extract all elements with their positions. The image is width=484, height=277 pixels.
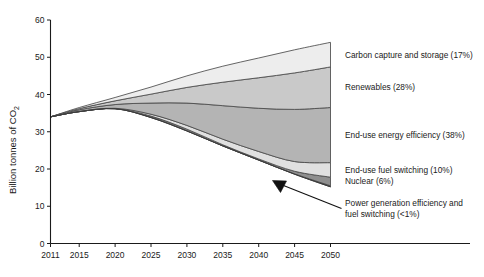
chart-figure: 0102030405060 20112015202020252030203520…	[0, 0, 484, 277]
legend-label-nuclear-6: Nuclear (6%)	[345, 176, 394, 186]
x-tick-label-2025: 2025	[142, 250, 161, 260]
emissions-abatement-wedge-chart: 0102030405060 20112015202020252030203520…	[0, 0, 484, 277]
x-tick-label-2035: 2035	[213, 250, 232, 260]
x-tick-label-2015: 2015	[70, 250, 89, 260]
x-axis-ticks: 201120152020202520302035204020452050	[41, 244, 340, 260]
legend-label-end-use-fuel-switching-10: End-use fuel switching (10%)	[345, 165, 453, 175]
stacked-wedge-areas	[51, 42, 331, 187]
x-tick-label-2045: 2045	[285, 250, 304, 260]
legend-label-renewables-28: Renewables (28%)	[345, 82, 415, 92]
y-axis-ticks: 0102030405060	[35, 15, 50, 249]
x-tick-label-2040: 2040	[249, 250, 268, 260]
x-tick-label-2050: 2050	[321, 250, 340, 260]
y-tick-label-20: 20	[35, 164, 45, 174]
x-tick-label-2030: 2030	[177, 250, 196, 260]
y-tick-label-40: 40	[35, 90, 45, 100]
y-axis-title-text: Billion tonnes of CO2	[7, 106, 20, 194]
y-tick-label-60: 60	[35, 15, 45, 25]
legend-label-end-use-energy-efficiency-38: End-use energy efficiency (38%)	[345, 130, 465, 140]
legend: Carbon capture and storage (17%)Renewabl…	[345, 50, 473, 187]
x-tick-label-2020: 2020	[106, 250, 125, 260]
y-tick-label-0: 0	[40, 239, 45, 249]
y-tick-label-30: 30	[35, 127, 45, 137]
callout-leader-line	[281, 185, 342, 209]
legend-label-carbon-capture-and-storage-17: Carbon capture and storage (17%)	[345, 50, 473, 60]
callout-arrowhead-icon	[273, 181, 287, 193]
y-axis-title: Billion tonnes of CO2	[7, 106, 20, 194]
x-tick-label-2011: 2011	[41, 250, 60, 260]
callout-label-line2: fuel switching (<1%)	[345, 209, 420, 219]
callout-label-line1: Power generation efficiency and	[345, 198, 463, 208]
y-tick-label-50: 50	[35, 52, 45, 62]
y-tick-label-10: 10	[35, 201, 45, 211]
